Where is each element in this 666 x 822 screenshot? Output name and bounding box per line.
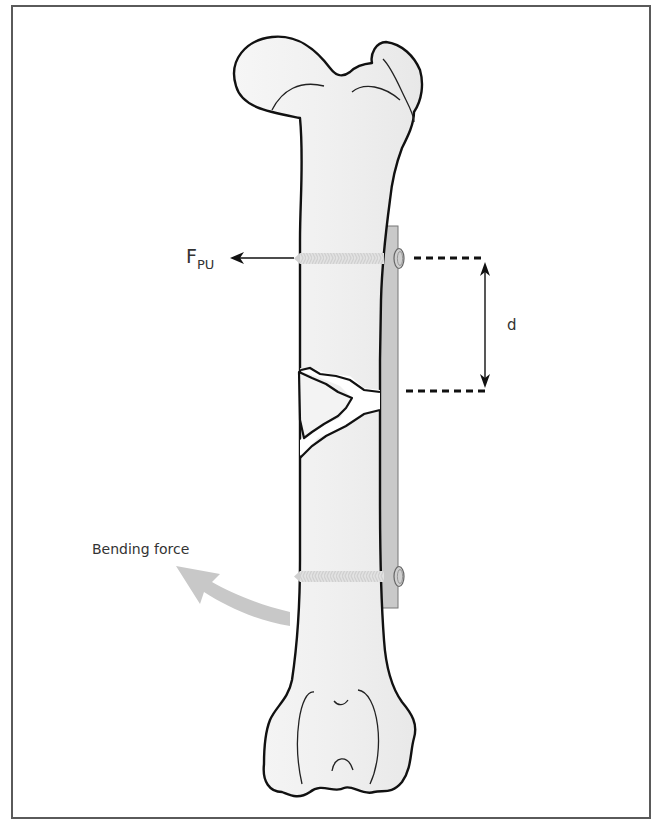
distance-dimension-arrow bbox=[480, 262, 490, 388]
femur-plate-diagram: FPU d Bending force bbox=[0, 0, 666, 822]
pullout-force-symbol: F bbox=[186, 245, 197, 267]
pullout-force-label: FPU bbox=[186, 245, 214, 272]
pullout-force-subscript: PU bbox=[197, 257, 214, 272]
bending-force-arrow bbox=[176, 566, 290, 626]
pullout-force-arrow bbox=[230, 252, 294, 264]
bending-force-label: Bending force bbox=[92, 541, 189, 557]
distance-label: d bbox=[507, 316, 517, 334]
